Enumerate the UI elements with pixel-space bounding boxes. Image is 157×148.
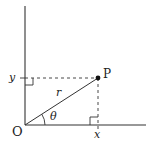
right-angle-marker-x (90, 117, 98, 125)
x-coordinate-label: x (94, 128, 101, 141)
point-label: P (103, 67, 111, 81)
angle-label: θ (50, 110, 57, 123)
radius-label: r (56, 86, 62, 99)
polar-coordinate-diagram: O P r θ x y (0, 0, 157, 148)
right-angle-marker-y (25, 78, 33, 85)
point-p-dot (96, 76, 101, 81)
angle-arc (42, 114, 45, 125)
origin-label: O (12, 124, 23, 139)
radius-line (25, 78, 98, 125)
y-coordinate-label: y (8, 71, 16, 84)
